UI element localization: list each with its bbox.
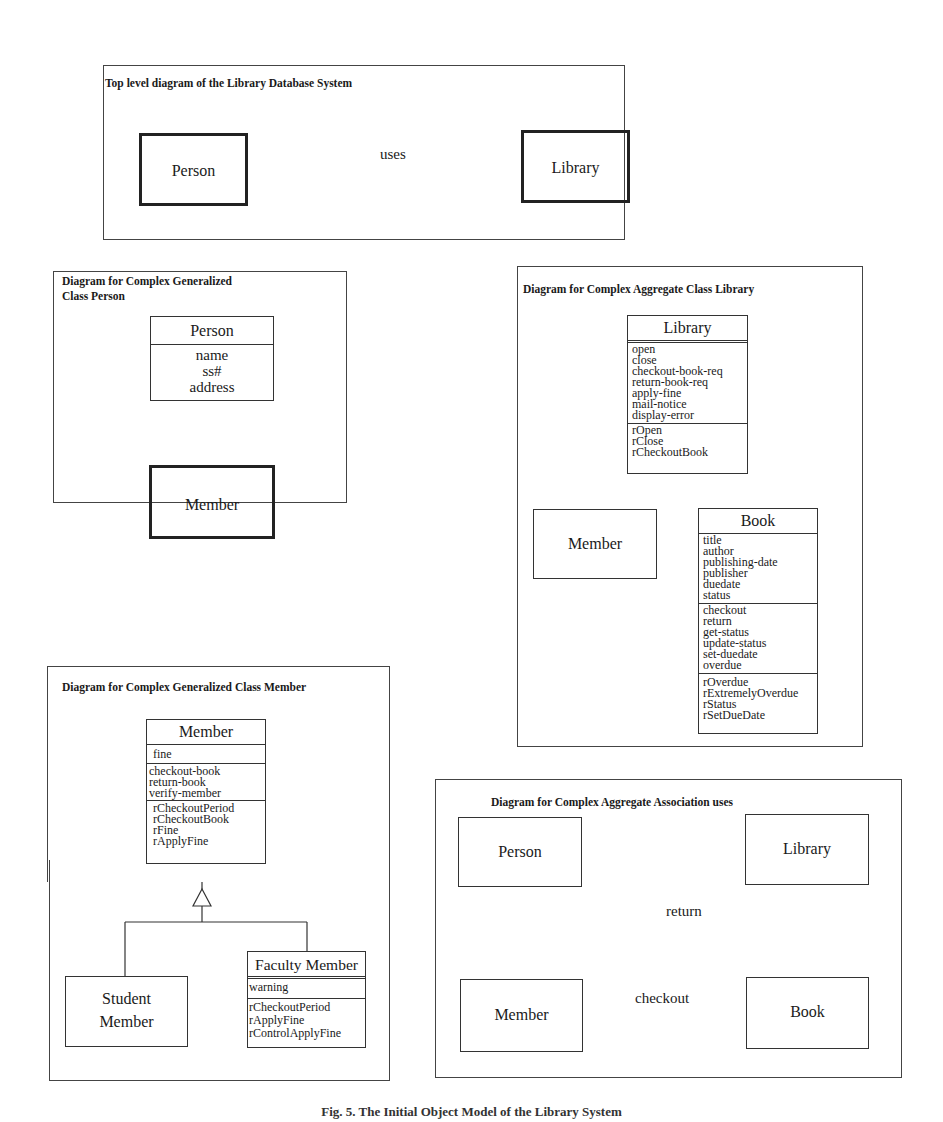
operation: verify-member — [149, 788, 263, 799]
operation: overdue — [703, 660, 813, 671]
library-label: Library — [746, 840, 868, 858]
person-label: Person — [142, 162, 245, 180]
uses-association-label[interactable]: uses — [380, 146, 406, 163]
book-class[interactable]: Book title author publishing-date publis… — [698, 508, 818, 734]
rule: rApplyFine — [153, 836, 259, 847]
class-name: Member — [147, 720, 265, 745]
rules-compartment: rOverdue rExtremelyOverdue rStatus rSetD… — [699, 674, 817, 723]
student-member-label-line1: Student — [66, 990, 187, 1008]
attribute: warning — [249, 981, 364, 994]
person-box[interactable]: Person — [458, 817, 582, 887]
rules-compartment: rCheckoutPeriod rCheckoutBook rFine rApp… — [147, 801, 265, 849]
attribute: address — [151, 379, 273, 395]
library-box[interactable]: Library — [521, 130, 630, 203]
class-name: Person — [151, 317, 273, 345]
rule: rControlApplyFine — [249, 1027, 364, 1040]
attributes-compartment: title author publishing-date publisher d… — [699, 534, 817, 604]
member-label: Member — [534, 535, 656, 553]
member-box[interactable]: Member — [533, 509, 657, 579]
attribute: fine — [153, 748, 259, 761]
operation: display-error — [632, 410, 743, 421]
rules-compartment: rOpen rClose rCheckoutBook — [628, 424, 747, 460]
library-label: Library — [524, 159, 627, 177]
checkout-link-label[interactable]: checkout — [635, 990, 689, 1007]
panel-title: Top level diagram of the Library Databas… — [105, 76, 352, 91]
rules-compartment: rCheckoutPeriod rApplyFine rControlApply… — [248, 999, 365, 1042]
operations-compartment: open close checkout-book-req return-book… — [628, 343, 747, 424]
member-class[interactable]: Member fine checkout-book return-book ve… — [146, 719, 266, 864]
return-link-label[interactable]: return — [666, 903, 702, 920]
book-label: Book — [747, 1003, 868, 1021]
panel-title: Diagram for Complex Generalized Class Pe… — [62, 274, 232, 304]
class-name: Faculty Member — [248, 952, 365, 979]
member-label: Member — [461, 1006, 582, 1024]
person-box[interactable]: Person — [139, 133, 248, 206]
attributes-compartment: warning — [248, 979, 365, 999]
rule: rSetDueDate — [703, 710, 813, 721]
member-label: Member — [152, 496, 272, 514]
attributes-compartment: fine — [147, 745, 265, 764]
book-box[interactable]: Book — [746, 977, 869, 1049]
attribute: status — [703, 590, 813, 601]
figure-caption: Fig. 5. The Initial Object Model of the … — [0, 1104, 943, 1120]
person-class[interactable]: Person name ss# address — [150, 316, 274, 401]
operations-compartment: checkout-book return-book verify-member — [147, 764, 265, 801]
person-label: Person — [459, 843, 581, 861]
library-class[interactable]: Library open close checkout-book-req ret… — [627, 315, 748, 474]
student-member-box[interactable]: Student Member — [65, 976, 188, 1047]
panel-title: Diagram for Complex Aggregate Associatio… — [491, 795, 733, 810]
student-member-label-line2: Member — [66, 1013, 187, 1031]
panel-title: Diagram for Complex Generalized Class Me… — [62, 680, 306, 695]
member-box[interactable]: Member — [149, 465, 275, 539]
rule: rCheckoutBook — [632, 447, 743, 458]
panel-title: Diagram for Complex Aggregate Class Libr… — [523, 282, 754, 297]
class-name: Library — [628, 316, 747, 343]
attributes-compartment: name ss# address — [151, 345, 273, 399]
attribute: name — [151, 347, 273, 363]
attribute: ss# — [151, 363, 273, 379]
faculty-member-class[interactable]: Faculty Member warning rCheckoutPeriod r… — [247, 951, 366, 1048]
member-box[interactable]: Member — [460, 979, 583, 1052]
class-name: Book — [699, 509, 817, 534]
library-box[interactable]: Library — [745, 814, 869, 885]
operations-compartment: checkout return get-status update-status… — [699, 604, 817, 674]
